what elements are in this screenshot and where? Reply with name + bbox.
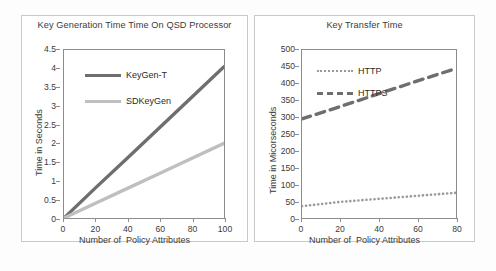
x-tick-mark xyxy=(379,218,380,222)
y-tick-label: 3.5 xyxy=(44,82,56,92)
y-tick-mark xyxy=(295,100,299,101)
y-tick-mark xyxy=(295,134,299,135)
x-tick-mark xyxy=(340,218,341,222)
x-tick-mark xyxy=(160,218,161,222)
x-tick-label: 80 xyxy=(188,224,198,234)
x-tick-mark xyxy=(63,218,64,222)
y-tick-mark xyxy=(56,143,60,144)
y-tick-label: 0.5 xyxy=(44,195,56,205)
x-tick-label: 100 xyxy=(218,224,232,234)
x-tick-label: 20 xyxy=(91,224,101,234)
legend-swatch-icon xyxy=(317,92,353,95)
y-tick-label: 150 xyxy=(281,163,295,173)
y-tick-label: 4.5 xyxy=(44,44,56,54)
y-tick-mark xyxy=(56,181,60,182)
x-tick-label: 0 xyxy=(299,224,304,234)
y-tick-label: 300 xyxy=(281,112,295,122)
legend-label: HTTP xyxy=(358,66,382,76)
x-tick-label: 60 xyxy=(413,224,423,234)
chart-title-left: Key Generation Time Time On QSD Processo… xyxy=(22,20,247,32)
y-tick-label: 50 xyxy=(285,197,295,207)
y-tick-label: 1.5 xyxy=(44,157,56,167)
legend-item-sdkeygen[interactable]: SDKeyGen xyxy=(85,96,171,106)
y-tick-mark xyxy=(295,83,299,84)
y-tick-mark xyxy=(56,87,60,88)
legend-item-http[interactable]: HTTP xyxy=(317,66,382,76)
x-axis-title-right: Number of Policy Attributes xyxy=(255,235,474,245)
figure-two-line-charts: Key Generation Time Time On QSD Processo… xyxy=(0,0,496,271)
x-tick-mark xyxy=(225,218,226,222)
x-tick-mark xyxy=(128,218,129,222)
y-axis-tick-labels-right: 050100150200250300350400450500 xyxy=(257,49,295,219)
chart-panel-key-transfer-time: Key Transfer Time Time in Micorseconds 0… xyxy=(254,15,475,242)
x-tick-mark xyxy=(95,218,96,222)
legend-label: KeyGen-T xyxy=(126,70,167,80)
y-tick-mark xyxy=(56,106,60,107)
y-tick-mark xyxy=(295,66,299,67)
series-line-keygen-t xyxy=(64,67,224,218)
y-axis-tick-labels-left: 00.511.522.533.544.5 xyxy=(20,49,56,219)
x-tick-mark xyxy=(193,218,194,222)
legend-label: SDKeyGen xyxy=(126,96,171,106)
y-tick-mark xyxy=(295,185,299,186)
x-tick-label: 0 xyxy=(61,224,66,234)
x-tick-label: 40 xyxy=(123,224,133,234)
x-tick-mark xyxy=(301,218,302,222)
y-tick-label: 500 xyxy=(281,44,295,54)
legend-swatch-icon xyxy=(85,74,121,77)
y-tick-mark xyxy=(56,49,60,50)
y-tick-mark xyxy=(295,151,299,152)
y-tick-mark xyxy=(295,49,299,50)
y-tick-mark xyxy=(56,200,60,201)
x-tick-label: 20 xyxy=(335,224,345,234)
y-tick-mark xyxy=(295,219,299,220)
x-tick-label: 40 xyxy=(374,224,384,234)
y-tick-mark xyxy=(295,117,299,118)
x-tick-mark xyxy=(457,218,458,222)
y-tick-mark xyxy=(56,68,60,69)
legend-label: HTTPS xyxy=(358,88,388,98)
y-tick-label: 2.5 xyxy=(44,120,56,130)
x-axis-title-left: Number of Policy Attributes xyxy=(22,235,247,245)
legend-item-keygen-t[interactable]: KeyGen-T xyxy=(85,70,167,80)
x-tick-label: 80 xyxy=(452,224,462,234)
y-tick-mark xyxy=(56,125,60,126)
y-tick-label: 200 xyxy=(281,146,295,156)
x-tick-mark xyxy=(418,218,419,222)
x-axis-tick-labels-right: 020406080 xyxy=(301,222,457,234)
chart-panel-key-generation-time: Key Generation Time Time On QSD Processo… xyxy=(21,15,248,242)
y-tick-label: 350 xyxy=(281,95,295,105)
chart-title-right: Key Transfer Time xyxy=(255,20,474,32)
legend-item-https[interactable]: HTTPS xyxy=(317,88,388,98)
y-tick-label: 100 xyxy=(281,180,295,190)
x-tick-label: 60 xyxy=(155,224,165,234)
series-line-sdkeygen xyxy=(64,143,224,218)
y-tick-mark xyxy=(295,168,299,169)
y-tick-label: 400 xyxy=(281,78,295,88)
y-tick-mark xyxy=(56,219,60,220)
y-tick-label: 450 xyxy=(281,61,295,71)
legend-swatch-icon xyxy=(317,70,353,72)
y-tick-label: 250 xyxy=(281,129,295,139)
legend-swatch-icon xyxy=(85,100,121,103)
x-axis-tick-labels-left: 020406080100 xyxy=(63,222,225,234)
series-line-http xyxy=(302,193,456,206)
y-tick-mark xyxy=(295,202,299,203)
y-tick-mark xyxy=(56,162,60,163)
